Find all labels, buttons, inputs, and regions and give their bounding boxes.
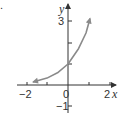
y-tick-label-3: 3	[58, 15, 64, 27]
y-tick-label-neg1: −1	[56, 100, 69, 112]
x-tick-label-0: 0	[63, 88, 69, 100]
exponential-curve	[33, 19, 90, 82]
panel-marker: .	[0, 0, 3, 11]
x-axis-label: x	[111, 87, 118, 101]
y-axis-label: y	[58, 2, 65, 16]
x-tick-label-2: 2	[104, 88, 110, 100]
exponential-graph: . −2 0 2 3 −1 x y	[0, 0, 121, 117]
x-tick-label-neg2: −2	[19, 88, 32, 100]
